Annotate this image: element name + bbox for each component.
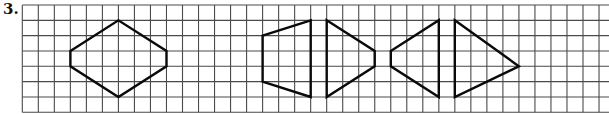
shape-right-pentagon-1: [327, 20, 375, 97]
grid-diagram: [0, 0, 609, 114]
shape-left-quad-2: [391, 20, 439, 97]
shape-left-trapezoid-1: [263, 20, 311, 97]
grid-lines: [22, 5, 609, 112]
